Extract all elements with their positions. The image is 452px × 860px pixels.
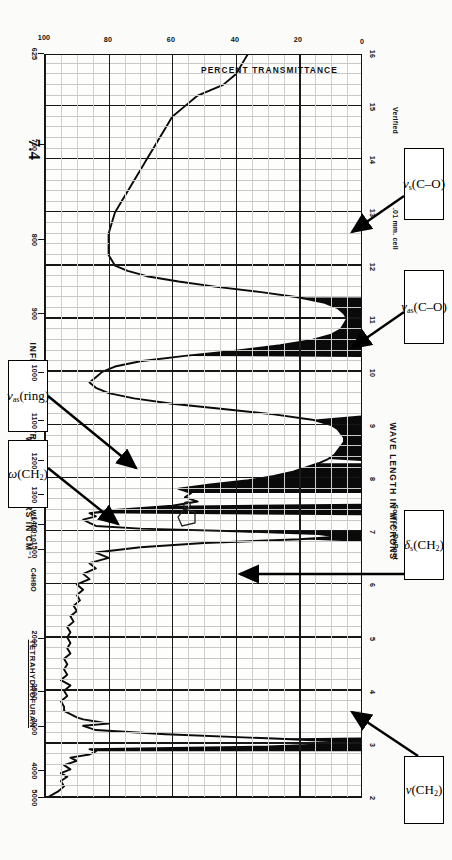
cell-thickness-label: .01 mm. cell (392, 208, 399, 250)
xtick-mark (38, 770, 44, 771)
xtick-mark (38, 460, 44, 461)
callout-nu-as-co[interactable]: νas(C–O) (404, 270, 444, 344)
grid-hline-minor (93, 55, 94, 797)
grid-hline-major (236, 55, 237, 797)
xtick-mark (38, 524, 44, 525)
grid-hline-minor (220, 55, 221, 797)
xtick-wavelength: 2 (368, 796, 377, 800)
plot-area (44, 54, 362, 798)
xtick-mark (38, 372, 44, 373)
callout-label: δs(CH2) (404, 537, 444, 553)
xtick-wavenumber: 4000 (30, 763, 39, 780)
verified-label: Verified (392, 107, 399, 134)
xtick-wavenumber: 2500 (30, 683, 39, 700)
callout-nu-ch2[interactable]: ν(CH2) (404, 756, 444, 824)
grid-hline-minor (284, 55, 285, 797)
xtick-wavelength: 6 (368, 583, 377, 587)
ytick-transmittance: 100 (38, 33, 51, 42)
xtick-wavelength: 10 (368, 369, 377, 377)
xtick-wavenumber: 800 (30, 234, 39, 247)
xtick-mark (38, 549, 44, 550)
xtick-wavenumber: 1200 (30, 453, 39, 470)
xtick-wavenumber: 900 (30, 308, 39, 321)
spectrogram-sheet: WAVE NUMBERS IN CM⁻¹ WAVE LENGTH IN MICR… (0, 0, 452, 860)
xtick-wavenumber: 625 (30, 48, 39, 61)
grid-hline-minor (315, 55, 316, 797)
xtick-mark (38, 691, 44, 692)
spectrogram-page: WAVE NUMBERS IN CM⁻¹ WAVE LENGTH IN MICR… (0, 0, 452, 860)
xtick-mark (38, 638, 44, 639)
callout-nu-s-co[interactable]: νs(C–O) (404, 148, 444, 220)
xtick-mark (38, 495, 44, 496)
xtick-mark (38, 420, 44, 421)
callout-delta-s-ch2[interactable]: δs(CH2) (404, 510, 444, 580)
xtick-wavenumber: 700 (30, 139, 39, 152)
callout-label: ν(CH2) (406, 782, 443, 798)
callout-label: νs(C–O) (403, 176, 445, 192)
ytick-transmittance: 40 (231, 35, 239, 44)
grid-hline-minor (268, 55, 269, 797)
xtick-wavelength: 14 (368, 156, 377, 164)
xtick-wavelength: 15 (368, 103, 377, 111)
ytick-transmittance: 0 (360, 37, 364, 46)
ytick-transmittance: 60 (167, 35, 175, 44)
xtick-wavelength: 12 (368, 262, 377, 270)
grid-hline-minor (347, 55, 348, 797)
grid-hline-major (299, 55, 300, 797)
xtick-mark (38, 726, 44, 727)
callout-label: ω(CH2) (8, 466, 48, 482)
xtick-wavenumber: 3000 (30, 719, 39, 736)
xtick-wavenumber: 1500 (30, 542, 39, 559)
xtick-wavelength: 8 (368, 477, 377, 481)
ytick-transmittance: 20 (294, 35, 302, 44)
xtick-wavenumber: 1400 (30, 516, 39, 533)
xtick-wavelength: 4 (368, 690, 377, 694)
xtick-wavelength: 5 (368, 636, 377, 640)
xtick-mark (38, 313, 44, 314)
xtick-wavenumber: 5000 (30, 790, 39, 807)
xtick-wavelength: 13 (368, 209, 377, 217)
xtick-wavelength: 11 (368, 316, 377, 324)
xtick-mark (38, 53, 44, 54)
callout-label: νas(ring) (7, 388, 49, 404)
axis-label-transmittance: PERCENT TRANSMITTANCE (201, 65, 338, 75)
xtick-wavelength: 3 (368, 743, 377, 747)
callout-omega-ch2[interactable]: ω(CH2) (8, 440, 48, 508)
xtick-mark (38, 797, 44, 798)
grid-hline-minor (204, 55, 205, 797)
grid-hline-minor (156, 55, 157, 797)
xtick-mark (38, 239, 44, 240)
grid-hline-minor (331, 55, 332, 797)
grid-hline-minor (188, 55, 189, 797)
xtick-mark (38, 144, 44, 145)
molecular-formula: C4H8O (30, 568, 37, 592)
xtick-wavelength: 16 (368, 50, 377, 58)
xtick-wavelength: 7 (368, 530, 377, 534)
ytick-transmittance: 80 (103, 35, 111, 44)
xtick-wavenumber: 1300 (30, 487, 39, 504)
grid-hline-minor (77, 55, 78, 797)
grid-hline-minor (61, 55, 62, 797)
grid-hline-major (109, 55, 110, 797)
xtick-wavelength: 9 (368, 424, 377, 428)
grid-hline-minor (140, 55, 141, 797)
source-label: Source: DuPont (392, 504, 399, 560)
grid-hline-major (172, 55, 173, 797)
grid-hline-minor (252, 55, 253, 797)
grid-hline-minor (125, 55, 126, 797)
callout-label: νas(C–O) (401, 299, 447, 315)
thf-ring-doodle (176, 500, 202, 530)
